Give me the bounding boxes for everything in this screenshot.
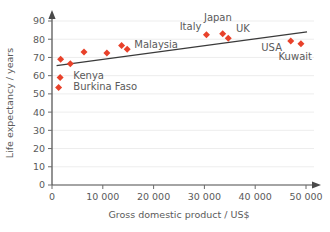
annotation-uk: UK [236,23,250,34]
x-tick-label-0: 0 [49,191,55,202]
data-point-kuwait [297,40,304,47]
y-axis-arrowhead [48,10,55,19]
x-tick-label-40000: 40 000 [239,191,272,202]
annotation-italy: Italy [180,21,202,32]
axes-group [48,10,321,189]
y-tick-label-70: 70 [33,52,45,63]
data-point-italy [203,31,210,38]
data-point-burkina-faso [55,84,62,91]
data-point-2 [57,56,64,63]
x-tick-label-50000: 50 000 [289,191,322,202]
data-point-7 [124,46,131,53]
y-tick-label-0: 0 [39,179,45,190]
data-point-3 [67,60,74,67]
x-axis-arrowhead [312,181,321,188]
y-tick-label-50: 50 [33,88,45,99]
x-tick-label-30000: 30 000 [188,191,221,202]
data-point-usa [287,38,294,45]
y-tick-label-10: 10 [33,161,45,172]
y-tick-label-80: 80 [33,34,45,45]
annotation-japan: Japan [203,12,232,23]
y-tick-label-30: 30 [33,125,45,136]
x-tick-label-10000: 10 000 [86,191,119,202]
scatter-chart: 0102030405060708090010 00020 00030 00040… [0,0,330,232]
data-point-uk [225,35,232,42]
y-tick-label-20: 20 [33,143,45,154]
y-axis-title: Life expectancy / years [4,48,15,158]
x-tick-label-20000: 20 000 [137,191,170,202]
chart-canvas: 0102030405060708090010 00020 00030 00040… [0,0,330,232]
annotation-malaysia: Malaysia [134,39,178,50]
data-point-4 [81,48,88,55]
y-tick-label-40: 40 [33,107,45,118]
y-tick-label-60: 60 [33,70,45,81]
annotation-burkina-faso: Burkina Faso [73,81,137,92]
data-point-malaysia [118,42,125,49]
annotation-kenya: Kenya [73,70,104,81]
data-point-kenya [57,74,64,81]
annotation-kuwait: Kuwait [279,51,312,62]
data-point-japan [219,30,226,37]
data-point-5 [103,49,110,56]
x-axis-title: Gross domestic product / US$ [108,209,249,220]
y-tick-label-90: 90 [33,15,45,26]
